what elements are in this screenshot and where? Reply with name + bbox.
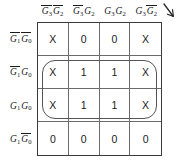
variable-token: G3 xyxy=(73,6,84,16)
column-header-1: G3G2 xyxy=(68,2,99,20)
variable-token: G3 xyxy=(104,6,115,16)
kmap-cell[interactable]: 1 xyxy=(100,56,131,89)
variable-token: G2 xyxy=(53,6,64,16)
column-header-0: G3G2 xyxy=(37,2,68,20)
kmap-cell[interactable]: 1 xyxy=(69,56,100,89)
row-header-3: G1G0 xyxy=(0,123,35,157)
kmap-cell[interactable]: X xyxy=(130,23,161,56)
row-header-column: G1G0 G1G0 G1G0 G1G0 xyxy=(0,22,35,156)
variable-token: G0 xyxy=(21,101,32,111)
kmap-cell[interactable]: 0 xyxy=(100,23,131,56)
kmap-cell[interactable]: 0 xyxy=(69,122,100,155)
variable-token: G2 xyxy=(146,6,157,16)
column-header-row: G3G2 G3G2 G3G2 G3G2 xyxy=(37,2,162,20)
column-header-3: G3G2 xyxy=(131,2,162,20)
kmap-cell[interactable]: X xyxy=(130,56,161,89)
kmap-cell[interactable]: 0 xyxy=(69,23,100,56)
column-header-2: G3G2 xyxy=(100,2,131,20)
kmap-cell[interactable]: 0 xyxy=(100,122,131,155)
kmap-cell[interactable]: X xyxy=(130,89,161,122)
kmap-cell[interactable]: 0 xyxy=(38,122,69,155)
kmap-cell[interactable]: X xyxy=(38,23,69,56)
variable-token: G2 xyxy=(115,6,126,16)
variable-token: G0 xyxy=(21,67,32,77)
kmap-cell[interactable]: X xyxy=(38,89,69,122)
variable-token: G1 xyxy=(10,134,21,144)
kmap-cell[interactable]: 0 xyxy=(130,122,161,155)
karnaugh-map-diagram: G3G2 G3G2 G3G2 G3G2 G1G0 G1G0 G1G0 G1G0 … xyxy=(0,0,178,164)
kmap-grid: X 0 0 X X 1 1 X X 1 1 X 0 0 0 0 xyxy=(37,22,162,156)
kmap-cell[interactable]: X xyxy=(38,56,69,89)
kmap-cell[interactable]: 1 xyxy=(100,89,131,122)
down-right-arrow-icon xyxy=(161,2,177,20)
variable-token: G2 xyxy=(84,6,95,16)
variable-token: G1 xyxy=(10,34,21,44)
variable-token: G1 xyxy=(10,67,21,77)
variable-token: G3 xyxy=(135,6,146,16)
row-header-1: G1G0 xyxy=(0,56,35,90)
variable-token: G0 xyxy=(21,34,32,44)
kmap-cell[interactable]: 1 xyxy=(69,89,100,122)
row-header-0: G1G0 xyxy=(0,22,35,56)
variable-token: G1 xyxy=(10,101,21,111)
row-header-2: G1G0 xyxy=(0,89,35,123)
variable-token: G0 xyxy=(21,134,32,144)
variable-token: G3 xyxy=(41,6,52,16)
